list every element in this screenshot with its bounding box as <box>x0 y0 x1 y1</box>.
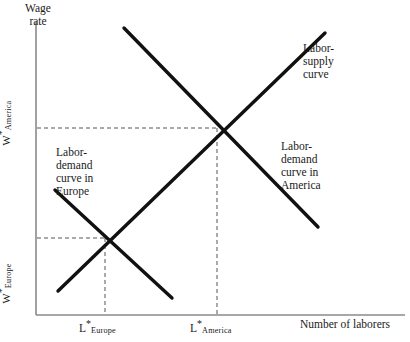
annotation-labor-demand-america: Labor- demand curve in America <box>281 140 321 192</box>
labor-demand-curve-europe <box>55 190 172 298</box>
wage-america-star: * <box>0 130 7 135</box>
x-tick-label-labor-america: L*America <box>190 318 232 334</box>
x-axis-title: Number of laborers <box>300 318 390 331</box>
wage-america-subscript: America <box>5 101 14 131</box>
annotation-labor-demand-europe: Labor- demand curve in Europe <box>56 146 93 198</box>
y-tick-label-wage-europe: W*Europe <box>0 263 12 303</box>
annotation-labor-supply-curve: Labor- supply curve <box>303 42 334 81</box>
y-axis-title: Wage rate <box>6 2 70 28</box>
y-tick-label-wage-america: W*America <box>0 101 12 146</box>
wage-europe-star: * <box>0 288 7 293</box>
labor-europe-subscript: Europe <box>91 326 116 335</box>
labor-europe-symbol: L <box>79 322 86 334</box>
x-tick-label-labor-europe: L*Europe <box>79 318 116 334</box>
wage-europe-subscript: Europe <box>5 263 14 288</box>
labor-america-symbol: L <box>190 322 197 334</box>
wage-america-symbol: W <box>0 135 12 145</box>
wage-europe-symbol: W <box>0 293 12 303</box>
labor-america-subscript: America <box>202 326 232 335</box>
labor-market-diagram: Wage rate Number of laborers W*America W… <box>0 0 410 342</box>
